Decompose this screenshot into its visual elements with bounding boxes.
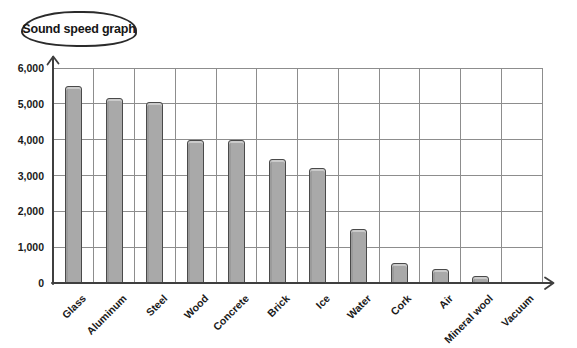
page: Sound speed graph 01,0002,0003,0004,0005… bbox=[0, 0, 577, 348]
sound-speed-bar-chart: 01,0002,0003,0004,0005,0006,000GlassAlum… bbox=[0, 0, 577, 348]
axes bbox=[0, 0, 577, 348]
